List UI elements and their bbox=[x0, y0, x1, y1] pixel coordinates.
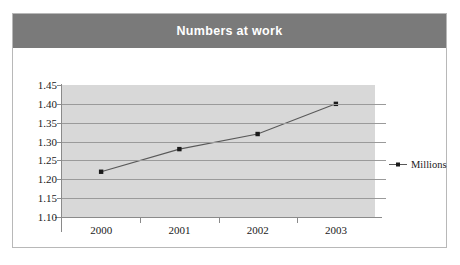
data-point-marker bbox=[177, 147, 181, 151]
chart-title-bar: Numbers at work bbox=[13, 14, 446, 48]
gridline bbox=[62, 104, 375, 105]
gridline-extension bbox=[375, 160, 386, 161]
x-axis-tick-label: 2001 bbox=[140, 223, 218, 241]
y-axis-tick-label: 1.40 bbox=[17, 99, 57, 110]
gridline-extension bbox=[375, 123, 386, 124]
gridline bbox=[62, 142, 375, 143]
gridline bbox=[62, 123, 375, 124]
x-axis-tick-labels: 2000200120022003 bbox=[62, 223, 375, 241]
y-axis-tick-label: 1.15 bbox=[17, 193, 57, 204]
y-axis-tick-mark bbox=[57, 85, 62, 86]
gridline-extension bbox=[375, 104, 386, 105]
x-axis-tick-mark bbox=[297, 218, 298, 223]
x-axis-tick-mark bbox=[219, 218, 220, 223]
data-point-marker bbox=[255, 132, 259, 136]
x-axis-tick-label: 2003 bbox=[297, 223, 375, 241]
gridline-extension bbox=[375, 198, 386, 199]
legend: Millions bbox=[388, 159, 447, 170]
gridline bbox=[62, 179, 375, 180]
gridline-extension bbox=[375, 179, 386, 180]
y-axis-tick-label: 1.35 bbox=[17, 118, 57, 129]
y-axis-tick-mark bbox=[57, 217, 62, 218]
data-point-marker bbox=[99, 170, 103, 174]
y-axis-tick-label: 1.10 bbox=[17, 212, 57, 223]
gridline bbox=[62, 198, 375, 199]
x-axis-tick-label: 2002 bbox=[219, 223, 297, 241]
y-axis-tick-label: 1.25 bbox=[17, 155, 57, 166]
y-axis-tick-labels: 1.451.401.351.301.251.201.151.10 bbox=[13, 85, 57, 217]
x-axis-tick-mark bbox=[140, 218, 141, 223]
x-axis-tick-label: 2000 bbox=[62, 223, 140, 241]
gridline bbox=[62, 160, 375, 161]
plot-area bbox=[62, 85, 375, 217]
y-axis-tick-label: 1.45 bbox=[17, 80, 57, 91]
legend-label-millions: Millions bbox=[411, 159, 447, 170]
y-axis-tick-label: 1.30 bbox=[17, 137, 57, 148]
series-line bbox=[101, 104, 336, 172]
chart-title: Numbers at work bbox=[177, 24, 283, 38]
chart-frame: Numbers at work 1.451.401.351.301.251.20… bbox=[12, 13, 447, 248]
legend-line-marker-icon bbox=[388, 160, 408, 169]
gridline-extension bbox=[375, 142, 386, 143]
y-axis-tick-label: 1.20 bbox=[17, 174, 57, 185]
